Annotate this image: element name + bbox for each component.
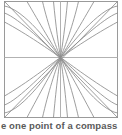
caption-strip: e one point of a compass <box>0 121 122 135</box>
power-curve-family-plot <box>0 0 122 122</box>
figure-caption: e one point of a compass <box>1 121 122 131</box>
figure-panel <box>0 0 122 122</box>
